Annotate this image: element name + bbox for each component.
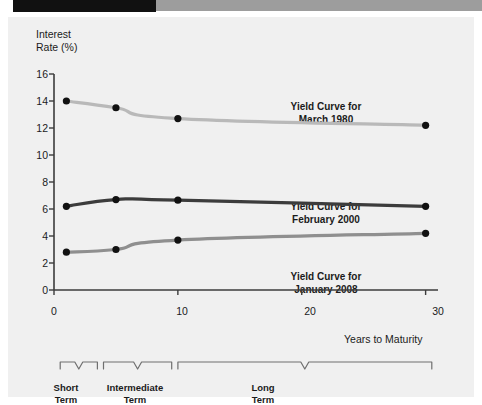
bracket-1	[104, 362, 172, 369]
data-point-2-2	[174, 236, 181, 243]
screenshot-root: Interest Rate (%) Years to Maturity 16 1…	[0, 0, 482, 405]
data-point-0-2	[174, 115, 181, 122]
data-point-2-3	[422, 230, 429, 237]
data-point-1-1	[112, 196, 119, 203]
data-point-0-1	[112, 104, 119, 111]
data-point-1-2	[174, 197, 181, 204]
series-line-2	[66, 233, 425, 252]
series-group	[63, 97, 429, 255]
chart-panel: Interest Rate (%) Years to Maturity 16 1…	[8, 17, 474, 397]
data-point-0-0	[63, 97, 70, 104]
header-black-bar	[13, 0, 156, 12]
data-point-2-0	[63, 249, 70, 256]
data-point-1-0	[63, 203, 70, 210]
series-line-1	[66, 199, 425, 207]
data-point-2-1	[112, 246, 119, 253]
bracket-2	[178, 362, 432, 369]
series-line-0	[66, 101, 425, 125]
data-point-0-3	[422, 122, 429, 129]
bracket-0	[60, 362, 97, 369]
chart-plot-area	[8, 17, 474, 397]
data-point-1-3	[422, 203, 429, 210]
brackets-group	[60, 362, 432, 369]
